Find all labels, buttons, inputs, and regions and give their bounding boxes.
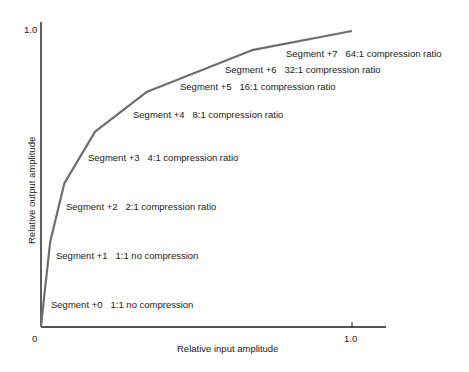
segment-name: Segment +5 [180,81,232,92]
segment-name: Segment +7 [286,48,338,59]
segment-name: Segment +2 [66,201,118,212]
segment-name: Segment +3 [88,152,140,163]
segment-name: Segment +4 [133,109,185,120]
annotation-segment-5: Segment +516:1 compression ratio [180,81,336,92]
segment-name: Segment +0 [51,299,103,310]
annotation-segment-3: Segment +34:1 compression ratio [88,152,238,163]
segment-name: Segment +6 [225,64,277,75]
annotation-segment-4: Segment +48:1 compression ratio [133,109,283,120]
segment-name: Segment +1 [56,250,108,261]
annotation-segment-7: Segment +764:1 compression ratio [286,48,442,59]
compression-curve [41,31,352,327]
annotation-segment-6: Segment +632:1 compression ratio [225,64,381,75]
annotation-segment-2: Segment +22:1 compression ratio [66,201,216,212]
x-axis-label: Relative input amplitude [177,343,278,354]
segment-ratio: 2:1 compression ratio [126,201,217,212]
segment-ratio: 8:1 compression ratio [193,109,284,120]
x-tick-label-0: 0 [32,333,37,344]
x-tick-label-1: 1.0 [344,333,357,344]
y-axis-label: Relative output amplitude [26,137,37,244]
segment-ratio: 4:1 compression ratio [148,152,239,163]
annotation-segment-0: Segment +01:1 no compression [51,299,193,310]
segment-ratio: 1:1 no compression [111,299,194,310]
segment-ratio: 16:1 compression ratio [240,81,336,92]
annotation-segment-1: Segment +11:1 no compression [56,250,198,261]
y-tick-label-1: 1.0 [24,24,37,35]
segment-ratio: 64:1 compression ratio [346,48,442,59]
segment-ratio: 1:1 no compression [116,250,199,261]
segment-ratio: 32:1 compression ratio [285,64,381,75]
